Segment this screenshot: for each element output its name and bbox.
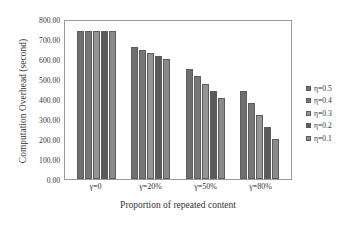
legend-swatch-icon (306, 98, 311, 103)
bar[interactable] (202, 84, 209, 179)
bar-group (186, 21, 225, 179)
legend-swatch-icon (306, 123, 311, 128)
bar-group (131, 21, 170, 179)
bar[interactable] (264, 127, 271, 179)
bar[interactable] (101, 31, 108, 179)
bar[interactable] (93, 31, 100, 179)
legend-item-label: η=0.1 (314, 134, 332, 143)
bar[interactable] (210, 91, 217, 179)
bar[interactable] (256, 115, 263, 179)
legend-swatch-icon (306, 111, 311, 116)
y-axis-tick-label: 0.00 (47, 176, 60, 185)
y-axis-tick-labels: 0.00100.00200.00300.00400.00500.00600.00… (18, 14, 62, 186)
bar[interactable] (109, 31, 116, 179)
bar-group (77, 21, 116, 179)
y-axis-tick-label: 600.00 (39, 56, 60, 65)
y-axis-tick-label: 400.00 (39, 96, 60, 105)
legend-item[interactable]: η=0.5 (306, 84, 332, 93)
y-axis-tick-label: 500.00 (39, 76, 60, 85)
bar[interactable] (186, 69, 193, 179)
x-axis-tick-label: γ=20% (125, 182, 177, 191)
bar[interactable] (248, 103, 255, 179)
bar[interactable] (77, 31, 84, 179)
x-axis-title: Proportion of repeated content (64, 200, 292, 210)
legend-swatch-icon (306, 86, 311, 91)
x-axis-tick-label: γ=0 (70, 182, 122, 191)
y-axis-tick-label: 200.00 (39, 136, 60, 145)
legend-item[interactable]: η=0.1 (306, 134, 332, 143)
bar[interactable] (131, 47, 138, 179)
y-axis-tick-label: 700.00 (39, 36, 60, 45)
bar[interactable] (218, 98, 225, 179)
legend-item[interactable]: η=0.4 (306, 96, 332, 105)
bar[interactable] (163, 59, 170, 179)
bar-chart-figure: Computation Overhead (second) 0.00100.00… (0, 0, 360, 228)
x-axis-tick-labels: γ=0γ=20%γ=50%γ=80% (64, 182, 292, 191)
chart-legend: η=0.5η=0.4η=0.3η=0.2η=0.1 (306, 84, 332, 143)
y-axis-tick-label: 100.00 (39, 156, 60, 165)
legend-item[interactable]: η=0.3 (306, 109, 332, 118)
bar-groups (65, 21, 291, 179)
plot-area (64, 20, 292, 180)
bar[interactable] (272, 139, 279, 179)
bar[interactable] (147, 53, 154, 179)
legend-item[interactable]: η=0.2 (306, 121, 332, 130)
bar[interactable] (85, 31, 92, 179)
legend-item-label: η=0.4 (314, 96, 332, 105)
x-axis-tick-label: γ=80% (235, 182, 287, 191)
x-axis-tick-label: γ=50% (180, 182, 232, 191)
bar[interactable] (240, 91, 247, 179)
y-axis-tick-label: 300.00 (39, 116, 60, 125)
bar[interactable] (139, 50, 146, 179)
bar[interactable] (194, 76, 201, 179)
legend-item-label: η=0.3 (314, 109, 332, 118)
legend-item-label: η=0.2 (314, 121, 332, 130)
bar[interactable] (155, 56, 162, 179)
bar-group (240, 21, 279, 179)
legend-swatch-icon (306, 136, 311, 141)
legend-item-label: η=0.5 (314, 84, 332, 93)
y-axis-tick-label: 800.00 (39, 16, 60, 25)
